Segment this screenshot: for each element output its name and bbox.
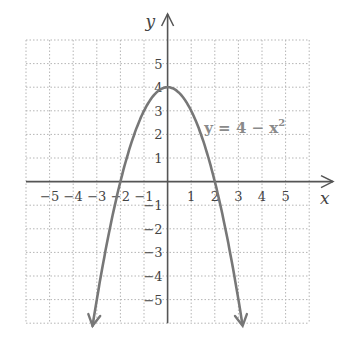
y-tick-label: 3	[154, 104, 162, 119]
y-tick-label: −1	[143, 198, 162, 213]
y-tick-label: −5	[143, 293, 162, 308]
x-tick-label: −4	[64, 189, 83, 204]
y-tick-label: 1	[154, 151, 162, 166]
x-tick-label: 1	[187, 189, 195, 204]
x-axis-label: x	[320, 188, 330, 208]
equation-label: y = 4 − x2	[203, 117, 285, 137]
y-tick-label: −3	[143, 245, 162, 260]
y-axis-label: y	[145, 11, 156, 31]
parabola-graph: −5−4−3−2−112345−5−4−3−2−112345 x y y = 4…	[0, 0, 359, 346]
x-tick-label: −5	[40, 189, 59, 204]
y-tick-label: −2	[143, 222, 162, 237]
x-tick-label: −2	[111, 189, 130, 204]
y-tick-label: 2	[154, 127, 162, 142]
axes	[26, 14, 333, 323]
x-tick-label: 4	[258, 189, 266, 204]
x-tick-label: 3	[234, 189, 242, 204]
y-tick-label: 5	[154, 57, 162, 72]
x-tick-label: 5	[281, 189, 289, 204]
x-tick-label: −3	[87, 189, 106, 204]
y-tick-label: −4	[143, 269, 162, 284]
